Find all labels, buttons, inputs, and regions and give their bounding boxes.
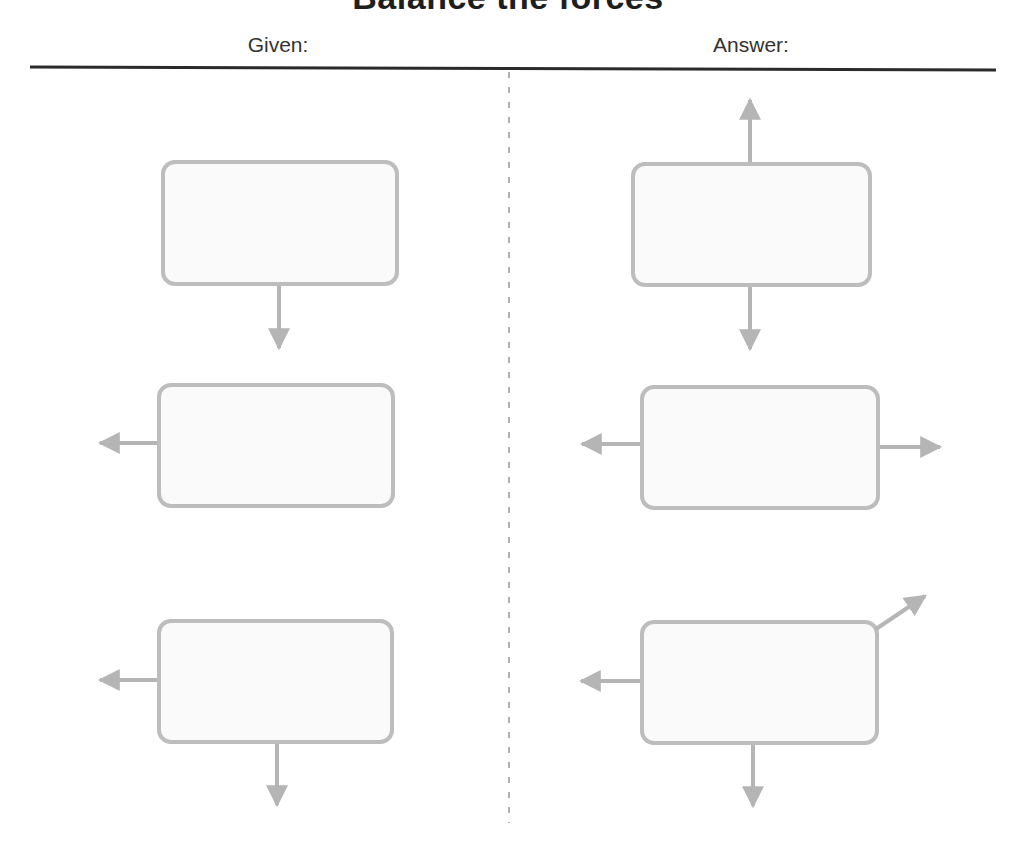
force-arrow-up-right-icon	[876, 596, 925, 629]
given-diagram-2	[100, 385, 393, 506]
answer-diagram-1	[633, 100, 870, 349]
force-diagram-canvas	[0, 0, 1016, 847]
object-box[interactable]	[159, 385, 393, 506]
object-box[interactable]	[633, 164, 870, 285]
object-box[interactable]	[642, 387, 878, 508]
answer-diagram-2	[582, 387, 940, 508]
object-box[interactable]	[159, 621, 392, 742]
given-diagram-1	[163, 162, 397, 348]
object-box[interactable]	[163, 162, 397, 284]
object-box[interactable]	[642, 622, 877, 743]
answer-diagram-3	[581, 596, 925, 806]
given-diagram-3	[100, 621, 392, 805]
header-rule	[30, 67, 996, 70]
